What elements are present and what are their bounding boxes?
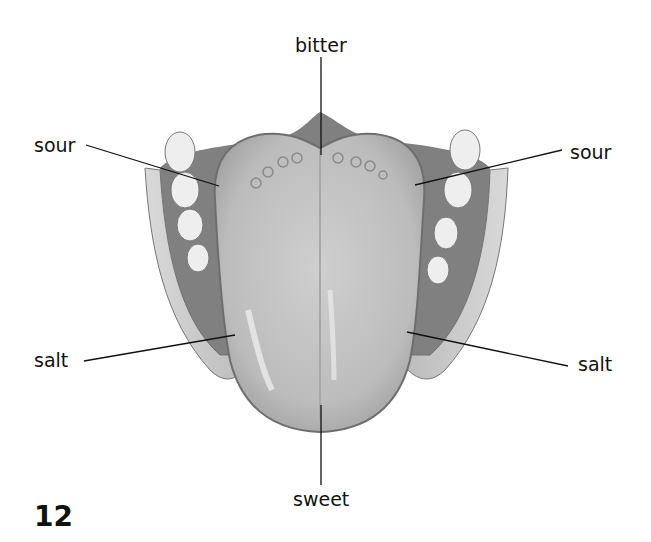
label-salt-left: salt (34, 351, 68, 370)
page-number: 12 (34, 503, 73, 531)
label-salt-right: salt (578, 355, 612, 374)
label-sour-right: sour (570, 143, 611, 162)
tongue-illustration (0, 0, 651, 542)
tongue-diagram: bitter sour sour salt salt sweet 12 (0, 0, 651, 542)
label-bitter: bitter (295, 36, 347, 55)
label-sour-left: sour (34, 136, 75, 155)
label-sweet: sweet (293, 490, 349, 509)
